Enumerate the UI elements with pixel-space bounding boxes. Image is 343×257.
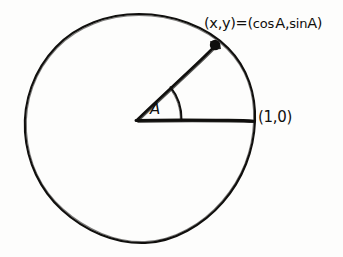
point-close-paren: ) <box>317 15 322 31</box>
horizontal-radius-overstroke <box>138 121 253 122</box>
cosine-function-name: cos <box>253 16 274 31</box>
sine-argument: A <box>307 15 317 31</box>
cosine-argument: A <box>275 15 285 31</box>
terminal-radius <box>137 47 215 121</box>
angle-label: A <box>150 102 160 117</box>
axis-point-label: (1,0) <box>258 110 292 125</box>
sine-function-name: sin <box>289 16 307 31</box>
diagram-canvas <box>0 0 343 257</box>
point-coordinate-label: (x,y)=(cos A,sinA) <box>204 16 322 31</box>
point-equals-sign: = <box>236 15 248 31</box>
point-xy-text: (x,y) <box>204 15 236 31</box>
unit-circle-diagram: (x,y)=(cos A,sinA) (1,0) A <box>0 0 343 257</box>
